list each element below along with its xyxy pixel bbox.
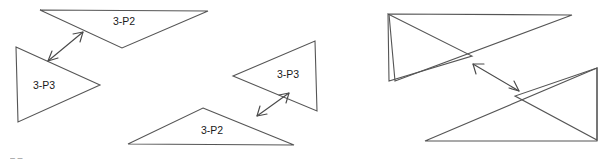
arrow-top-left-pair (48, 32, 83, 61)
right-triangle-3p3: 3-P3 (233, 41, 317, 111)
left-triangle-3p3-label: 3-P3 (33, 79, 55, 91)
figure-canvas: 3-P2 3-P3 3-P3 3-P2 (0, 0, 612, 163)
arrow-between-overlapping-groups-shaft (473, 64, 519, 91)
arrow-bottom-right-pair (257, 93, 289, 116)
top-triangle-3p2: 3-P2 (40, 10, 208, 48)
cropped-text-artifact: – – (10, 153, 23, 163)
separated-triangles-panel: 3-P2 3-P3 3-P3 3-P2 (16, 10, 317, 145)
right-triangle-3p3-outline (233, 41, 317, 111)
lower-overlap-group (425, 68, 597, 141)
upper-right-pointing-triangle-outline (389, 14, 572, 81)
diagram-svg: 3-P2 3-P3 3-P3 3-P2 (0, 0, 612, 163)
top-triangle-3p2-label: 3-P2 (113, 15, 135, 27)
bottom-triangle-3p2: 3-P2 (128, 108, 294, 145)
arrow-bottom-right-pair-shaft (257, 93, 289, 116)
overlapping-triangles-panel (388, 14, 597, 141)
arrow-between-overlapping-groups (473, 64, 519, 91)
bottom-triangle-3p2-label: 3-P2 (201, 124, 223, 136)
right-triangle-3p3-label: 3-P3 (277, 68, 299, 80)
lower-right-pointing-triangle-outline (515, 68, 597, 140)
upper-left-pointing-triangle-outline (388, 14, 472, 81)
upper-overlap-group (388, 14, 572, 81)
lower-left-pointing-triangle-outline (425, 68, 597, 141)
arrow-top-left-pair-shaft (48, 32, 83, 61)
